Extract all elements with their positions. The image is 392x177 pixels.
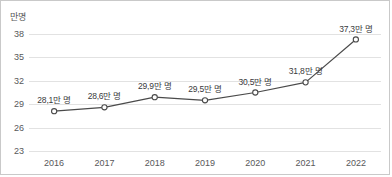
x-tick-label-2016: 2016 [44,158,64,168]
data-point-marker-2016 [52,109,57,114]
data-point-label-2020: 30,5만 명 [239,75,273,87]
data-point-label-2016: 28,1만 명 [37,93,71,105]
data-point-marker-2019 [202,98,207,103]
y-tick-label-35: 35 [14,52,24,62]
x-tick-label-2021: 2021 [296,158,316,168]
y-tick-label-29: 29 [14,99,24,109]
data-point-label-2017: 28,6만 명 [88,89,122,101]
x-tick-label-2020: 2020 [245,158,265,168]
y-tick-label-26: 26 [14,123,24,133]
data-point-marker-2018 [152,95,157,100]
data-point-marker-2022 [353,37,358,42]
data-point-label-2022: 37,3만 명 [339,22,373,34]
line-chart-figure: 만명 383532292623 201620172018201920202021… [0,0,390,175]
data-point-label-2021: 31,8만 명 [289,64,323,76]
x-tick-label-2022: 2022 [346,158,366,168]
x-tick-label-2018: 2018 [145,158,165,168]
y-tick-label-32: 32 [14,76,24,86]
x-tick-label-2017: 2017 [94,158,114,168]
plot-area: 383532292623 201620172018201920202021202… [29,34,381,151]
y-tick-label-23: 23 [14,146,24,156]
data-point-label-2019: 29,5만 명 [188,82,222,94]
data-point-marker-2021 [303,80,308,85]
data-point-marker-2020 [253,90,258,95]
x-tick-label-2019: 2019 [195,158,215,168]
data-point-label-2018: 29,9만 명 [138,79,172,91]
data-point-marker-2017 [102,105,107,110]
y-tick-label-38: 38 [14,29,24,39]
gridline-23 [29,151,381,152]
y-axis-unit-label: 만명 [10,10,26,23]
